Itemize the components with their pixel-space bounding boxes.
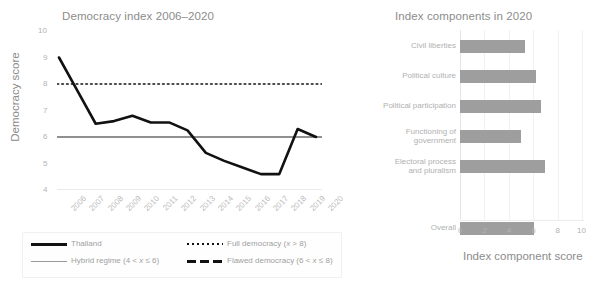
bar-category-label: Civil liberties [361,41,456,51]
line-chart-ylabel-wrapper: Democracy score [5,37,23,157]
bar-category-label: Political participation [361,101,456,111]
legend-label: Thailand [71,239,102,248]
ytick-5: 5 [43,159,47,168]
bar-category-label: Electoral process and pluralism [361,157,456,176]
bar-xtick-2: 2 [482,226,486,235]
bar [460,100,541,113]
ytick-8: 8 [43,79,47,88]
ytick-10: 10 [38,26,47,35]
xtick-2017: 2017 [271,194,290,213]
democracy-index-figure: Democracy index 2006–2020 Democracy scor… [0,0,612,288]
xtick-2007: 2007 [88,194,107,213]
xtick-2018: 2018 [289,194,308,213]
legend-item[interactable]: Full democracy (x > 8) [183,237,337,252]
xtick-2008: 2008 [106,194,125,213]
line-chart-ylabel: Democracy score [9,52,21,141]
bar-xtick-10: 10 [577,226,586,235]
legend-label: Hybrid regime (4 < x ≤ 6) [71,256,159,265]
ytick-9: 9 [43,53,47,62]
xtick-2009: 2009 [124,194,143,213]
xtick-2019: 2019 [308,194,327,213]
gridline-2 [484,30,485,220]
gridline-4 [509,30,510,220]
gridline-10 [582,30,583,220]
legend-item[interactable]: Thailand [27,237,183,252]
bar-category-label: Functioning of government [361,127,456,146]
legend-item[interactable]: Flawed democracy (6 < x ≤ 8) [183,254,337,269]
bar [460,222,534,235]
line-chart-plot-area [57,31,322,190]
gridline-8 [558,30,559,220]
xtick-2006: 2006 [69,194,88,213]
xtick-2013: 2013 [198,194,217,213]
line-series-thailand [59,58,316,175]
line-chart-title: Democracy index 2006–2020 [62,10,214,22]
gridline-0 [460,30,461,220]
xtick-2016: 2016 [253,194,272,213]
bar-xtick-4: 4 [507,226,511,235]
bar-xtick-6: 6 [531,226,535,235]
chart-legend: ThailandFull democracy (x > 8)Hybrid reg… [22,232,342,278]
bar [460,130,521,143]
bar-xtick-0: 0 [458,226,462,235]
ytick-6: 6 [43,132,47,141]
bar-category-label: Political culture [361,71,456,81]
bar-category-label: Overall [361,223,456,233]
legend-label: Flawed democracy (6 < x ≤ 8) [227,256,333,265]
xtick-2012: 2012 [179,194,198,213]
line-chart-panel: Democracy index 2006–2020 Democracy scor… [0,0,345,288]
gridline-6 [533,30,534,220]
bar-chart-panel: Index components in 2020 Civil liberties… [345,0,612,288]
legend-label: Full democracy (x > 8) [227,239,306,248]
bar-chart-plot-area [460,30,582,220]
bar [460,160,545,173]
legend-swatch-solid-thin-icon [31,261,67,262]
legend-swatch-dotted-icon [187,243,223,245]
ytick-4: 4 [43,185,47,194]
xtick-2020: 2020 [326,194,345,213]
legend-swatch-solid-thick-icon [31,243,67,246]
bar [460,70,536,83]
bar-chart-xlabel: Index component score [463,250,583,262]
bar-chart-title: Index components in 2020 [395,10,532,22]
ytick-7: 7 [43,106,47,115]
bar-chart-x-axis-line [460,220,584,221]
xtick-2010: 2010 [143,194,162,213]
bar-xtick-8: 8 [556,226,560,235]
bar [460,40,525,53]
xtick-2015: 2015 [234,194,253,213]
legend-swatch-dashed-icon [187,260,223,263]
xtick-2011: 2011 [161,194,180,213]
xtick-2014: 2014 [216,194,235,213]
line-chart-svg [57,31,322,190]
legend-item[interactable]: Hybrid regime (4 < x ≤ 6) [27,254,183,269]
